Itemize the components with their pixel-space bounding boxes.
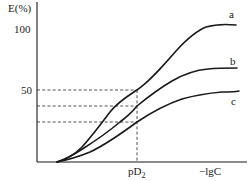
curve-label-b: b <box>230 56 236 67</box>
x-axis-title: −lgC <box>199 166 221 177</box>
pd2-base-text: pD <box>128 165 141 177</box>
dose-response-figure: E(%) 100 50 −lgC pD2 a b c <box>0 0 249 181</box>
curve-c <box>57 91 239 162</box>
curve-label-c: c <box>231 96 236 107</box>
x-marker-label-pd2: pD2 <box>128 166 145 180</box>
y-tick-label-50: 50 <box>21 85 32 96</box>
plot-canvas <box>0 0 249 181</box>
y-tick-label-100: 100 <box>14 24 31 35</box>
curve-label-a: a <box>229 9 234 20</box>
y-axis-title: E(%) <box>8 3 31 14</box>
pd2-subscript: 2 <box>141 171 145 180</box>
